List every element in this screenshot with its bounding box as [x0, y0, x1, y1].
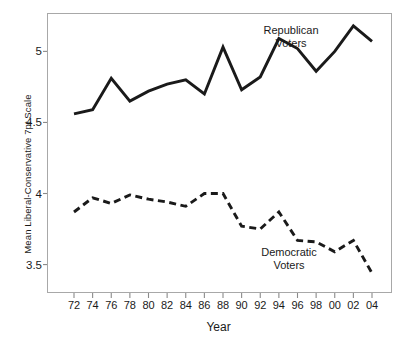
- series-label-democratic: Democratic Voters: [243, 246, 335, 271]
- series-label-republican-line2: Voters: [245, 37, 337, 50]
- y-tick-label: 4: [8, 188, 42, 200]
- y-tick-label: 4.5: [8, 116, 42, 128]
- series-label-democratic-line2: Voters: [243, 259, 335, 272]
- series-label-democratic-line1: Democratic: [243, 246, 335, 259]
- chart-container: Mean Liberal-Conservative 7pt Scale 3.54…: [0, 0, 414, 348]
- y-tick-label: 5: [8, 45, 42, 57]
- series-label-republican: Republican Voters: [245, 24, 337, 49]
- y-tick-label: 3.5: [8, 259, 42, 271]
- series-label-republican-line1: Republican: [245, 24, 337, 37]
- x-axis-title: Year: [47, 320, 390, 334]
- x-tick-label: 04: [360, 299, 384, 311]
- plot-area: [47, 13, 392, 293]
